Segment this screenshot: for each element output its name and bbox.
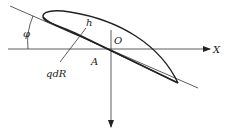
h-label: h — [86, 17, 92, 28]
phi-label: φ — [23, 28, 30, 39]
origin-label: O — [114, 35, 122, 46]
point-a-label: A — [90, 56, 98, 67]
force-label: qdR — [46, 68, 67, 79]
x-axis-label: X — [212, 44, 221, 55]
airfoil-diagram: φ h O A X qdR — [0, 0, 226, 135]
